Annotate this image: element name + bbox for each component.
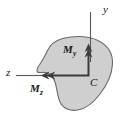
moment-label-mz-subscript: z: [40, 88, 43, 97]
centroid-label-c: C: [90, 77, 97, 88]
moment-label-my-base: M: [63, 43, 73, 55]
moment-label-my: My: [63, 44, 76, 55]
moment-vector-diagram: y z My Mz C: [0, 0, 125, 121]
moment-label-mz-base: M: [30, 82, 40, 94]
moment-label-my-subscript: y: [73, 49, 76, 58]
moment-label-mz: Mz: [30, 83, 43, 94]
axis-label-z: z: [6, 67, 10, 78]
diagram-canvas: [0, 0, 125, 121]
axis-label-y: y: [103, 4, 108, 15]
